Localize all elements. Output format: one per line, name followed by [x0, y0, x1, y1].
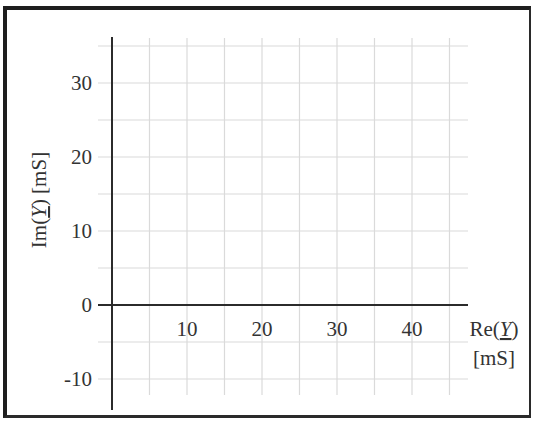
y-axis-label: Im(Y) [mS] — [27, 152, 51, 248]
x-axis-unit: [mS] — [473, 346, 515, 370]
y-tick-labels: -100102030 — [64, 71, 92, 391]
x-tick-label: 20 — [252, 317, 273, 341]
x-tick-label: 10 — [177, 317, 198, 341]
admittance-plane-chart: 10203040 -100102030 Im(Y) [mS] Re(Y) [mS… — [0, 0, 538, 422]
y-tick-label: 0 — [82, 293, 93, 317]
grid-lines — [98, 38, 468, 395]
y-tick-label: 20 — [71, 145, 92, 169]
y-tick-label: 30 — [71, 71, 92, 95]
x-tick-label: 30 — [327, 317, 348, 341]
x-axis-label: Re(Y) — [469, 317, 518, 341]
x-tick-label: 40 — [402, 317, 423, 341]
y-tick-label: 10 — [71, 219, 92, 243]
y-tick-label: -10 — [64, 367, 92, 391]
